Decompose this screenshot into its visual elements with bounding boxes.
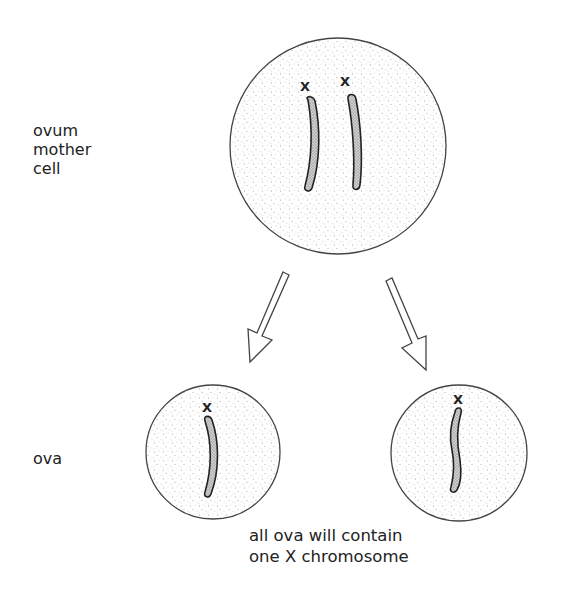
mother-cell-label: ovum mother cell (33, 121, 91, 178)
x-mark-ovum-right: X (453, 392, 463, 407)
caption-line-2: one X chromosome (249, 546, 409, 567)
ovum-right: X (391, 385, 527, 521)
x-mark-ovum-left: X (202, 400, 212, 415)
mother-cell-label-line-1: ovum (33, 121, 91, 140)
mother-cell: X X (230, 38, 446, 254)
arrow-left (248, 272, 289, 362)
ovum-left: X (146, 385, 280, 519)
x-mark-mother-left: X (300, 79, 310, 94)
x-mark-mother-right: X (340, 74, 350, 89)
mother-cell-label-line-3: cell (33, 159, 91, 178)
caption-line-1: all ova will contain (249, 525, 409, 546)
caption: all ova will contain one X chromosome (249, 525, 409, 567)
diagram-canvas: X X X X (0, 0, 563, 601)
ova-label: ova (33, 449, 62, 468)
mother-cell-label-line-2: mother (33, 140, 91, 159)
arrow-right (386, 278, 426, 370)
